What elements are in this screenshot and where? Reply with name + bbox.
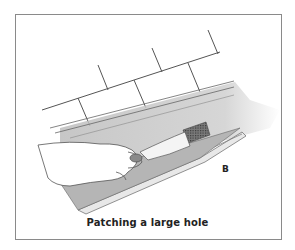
gutter-repair-illustration bbox=[0, 0, 295, 250]
figure-label: B bbox=[222, 164, 229, 174]
figure-caption: Patching a large hole bbox=[0, 217, 295, 228]
